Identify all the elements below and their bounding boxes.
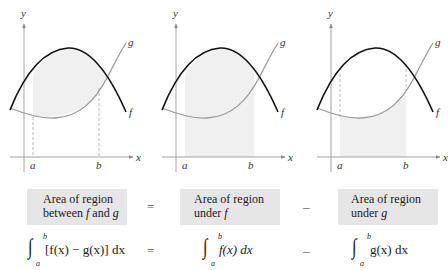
g-label: g — [435, 36, 441, 48]
shaded-region-under-f — [185, 48, 254, 157]
integral-sign: ∫ — [352, 236, 357, 258]
y-label: y — [20, 7, 26, 19]
upper-limit: b — [218, 232, 222, 241]
g-label: g — [280, 36, 286, 48]
x-label: x — [442, 151, 448, 163]
b-label: b — [96, 159, 102, 171]
f-label: f — [129, 106, 134, 118]
upper-limit: b — [367, 232, 371, 241]
box-area-under-g: Area of region under g — [338, 189, 438, 225]
integrand: g(x) dx — [370, 242, 408, 258]
f-label: f — [281, 106, 286, 118]
b-label: b — [248, 159, 254, 171]
box-area-under-f: Area of region under f — [180, 189, 280, 225]
shaded-region-under-g — [340, 90, 406, 157]
lower-limit: a — [211, 259, 215, 268]
integral-sign: ∫ — [28, 236, 33, 258]
a-label: a — [337, 159, 343, 171]
curve-g — [317, 43, 433, 118]
equals-sign: = — [147, 243, 154, 259]
a-label: a — [182, 159, 188, 171]
x-label: x — [135, 151, 141, 163]
a-label: a — [30, 159, 36, 171]
f-label: f — [436, 106, 441, 118]
integral-sign: ∫ — [203, 236, 208, 258]
graphs-row: y x f g a b y x f g a b y x f g a b — [0, 0, 448, 180]
box-line-1: Area of region — [43, 192, 127, 206]
box-line-2: under f — [194, 206, 280, 220]
integrand: [f(x) − g(x)] dx — [45, 242, 125, 258]
b-label: b — [403, 159, 409, 171]
g-label: g — [128, 36, 134, 48]
graph-under-g: y x f g a b — [317, 7, 448, 172]
graph-between: y x f g a b — [10, 7, 141, 172]
box-line-1: Area of region — [194, 192, 280, 206]
box-line-2: under g — [351, 206, 438, 220]
graph-under-f: y x f g a b — [162, 7, 293, 172]
minus-sign: – — [303, 243, 310, 259]
lower-limit: a — [360, 259, 364, 268]
x-label: x — [287, 151, 293, 163]
lower-limit: a — [36, 259, 40, 268]
y-label: y — [327, 7, 333, 19]
curve-f — [317, 48, 433, 112]
box-line-2: between f and g — [43, 206, 127, 220]
integrand: f(x) dx — [219, 242, 253, 258]
box-line-1: Area of region — [351, 192, 438, 206]
box-area-between: Area of region between f and g — [27, 189, 127, 225]
equals-sign: = — [147, 199, 154, 215]
y-label: y — [172, 7, 178, 19]
minus-sign: – — [303, 199, 310, 215]
upper-limit: b — [43, 232, 47, 241]
